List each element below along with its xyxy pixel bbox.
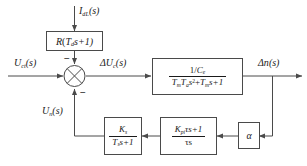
filter-denominator: Tss+1 [109,137,136,147]
filter-den-T-sub: s [117,141,119,147]
disturbance-subscript: dL [82,10,89,17]
plant-den-T3-sub: m [205,82,209,88]
plant-den-T2-sub: a [186,82,189,88]
filter-den-tail: s+1 [120,137,134,147]
pi-controller-block[interactable]: Kpiτs+1 τs [160,117,217,155]
alpha-gain-block[interactable]: α [238,122,260,149]
control-subscript: c [113,62,116,69]
plant-numerator: 1/Ce [169,66,226,77]
control-arg: (s) [116,57,127,68]
pi-numerator: Kpiτs+1 [172,125,206,136]
reference-input-label: Uct(s) [14,58,36,68]
pi-num-tail: τs+1 [185,124,202,134]
sum-sign-bottom: − [80,88,86,98]
filter-numerator: Ks [109,125,136,136]
feedback-voltage-label: Un(s) [42,106,63,116]
pi-transfer-function: Kpiτs+1 τs [172,125,206,147]
disturbance-gain-expression: R(Tds+1) [56,36,93,47]
disturbance-gain-block[interactable]: R(Tds+1) [46,31,103,51]
disturbance-gain-T-sub: d [71,40,74,47]
plant-den-tail: s+1 [209,77,223,87]
plant-num-C-sub: e [203,69,205,75]
control-symbol: ΔU [100,57,113,68]
output-symbol: Δn [258,57,269,68]
filter-num-K: K [119,124,125,134]
filter-transfer-function: Ks Tss+1 [109,125,136,147]
reference-subscript: ct [21,62,25,69]
output-arg: (s) [269,57,280,68]
pi-num-K-sub: pi [181,129,185,135]
output-label: Δn(s) [258,58,279,68]
pi-num-K: K [175,124,181,134]
disturbance-arg: (s) [89,5,100,16]
plant-block[interactable]: 1/Ce TmTas2+Tms+1 [152,58,243,95]
disturbance-input-label: IdL(s) [79,6,99,16]
plant-den-s-exp: 2 [192,78,195,84]
feedback-arg: (s) [52,105,63,116]
plant-den-T1-sub: m [177,82,181,88]
feedback-subscript: n [49,110,52,117]
alpha-symbol: α [246,130,251,141]
block-diagram: IdL(s) R(Tds+1) Uct(s) − − ΔUc(s) 1/Ce T… [0,0,307,166]
plant-num-prefix: 1/ [190,65,197,75]
plant-denominator: TmTas2+Tms+1 [169,77,226,87]
filter-num-K-sub: s [125,129,127,135]
pi-denominator: τs [172,137,206,147]
control-signal-label: ΔUc(s) [100,58,126,68]
reference-arg: (s) [26,57,37,68]
sum-sign-top: − [64,54,70,64]
filter-block[interactable]: Ks Tss+1 [104,117,142,155]
disturbance-gain-tail: s+1) [74,36,93,47]
plant-transfer-function: 1/Ce TmTas2+Tms+1 [169,66,226,88]
plant-num-C: C [197,65,203,75]
